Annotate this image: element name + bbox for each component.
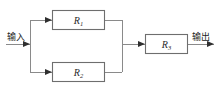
output-label: 输出 xyxy=(192,31,210,42)
block-r1[interactable]: R1 xyxy=(53,11,105,30)
input-label: 输入 xyxy=(7,31,25,42)
arrow-into-r3-icon xyxy=(138,41,145,47)
arrow-into-r2-icon xyxy=(45,69,52,75)
diagram-svg: R1 R2 R3 输入 输出 xyxy=(0,0,222,92)
arrow-into-r1-icon xyxy=(45,17,52,23)
diagram-canvas: R1 R2 R3 输入 输出 xyxy=(0,0,222,92)
block-r2[interactable]: R2 xyxy=(53,63,105,82)
block-r3[interactable]: R3 xyxy=(146,35,188,54)
